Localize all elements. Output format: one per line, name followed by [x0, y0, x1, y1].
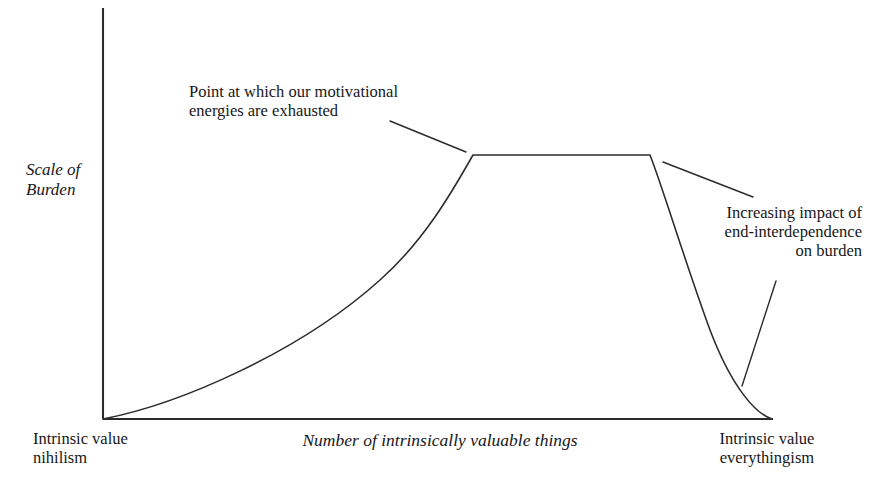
leader-line-plateau [390, 121, 466, 152]
leader-line-descent-upper [663, 162, 753, 197]
annotation-plateau-text: Point at which our motivational energies… [189, 82, 479, 120]
y-axis-title: Scale of Burden [26, 160, 100, 199]
burden-curve [103, 155, 772, 419]
leader-line-descent-lower [742, 281, 776, 386]
x-axis-left-endpoint-label: Intrinsic value nihilism [33, 429, 183, 467]
figure-container: Scale of Burden Number of intrinsically … [0, 0, 884, 502]
annotation-descent-text: Increasing impact of end-interdependence… [640, 203, 862, 260]
x-axis-right-endpoint-label: Intrinsic value everythingism [672, 429, 862, 467]
x-axis-title: Number of intrinsically valuable things [232, 430, 648, 450]
